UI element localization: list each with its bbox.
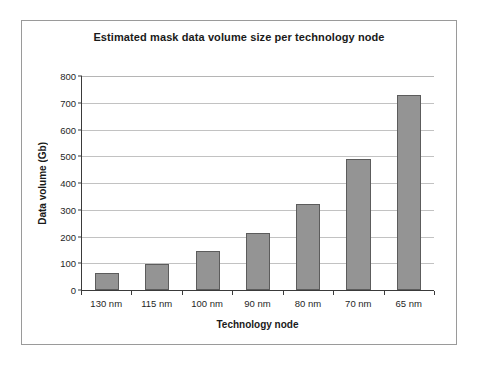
x-axis-title: Technology node	[81, 319, 434, 330]
x-tick-label: 80 nm	[283, 298, 333, 309]
x-tick-mark	[232, 291, 233, 295]
bar[interactable]	[296, 204, 320, 290]
x-tick-mark	[182, 291, 183, 295]
bar[interactable]	[145, 264, 169, 290]
y-tick-label: 300	[60, 204, 76, 215]
plot-area: 8007006005004003002001000	[81, 76, 434, 291]
y-tick-label: 500	[60, 151, 76, 162]
bar-slot	[132, 76, 182, 290]
x-axis-ticks	[81, 291, 434, 296]
y-tick-label: 400	[60, 178, 76, 189]
y-tick-label: 100	[60, 258, 76, 269]
x-tick-label: 115 nm	[131, 298, 181, 309]
x-tick-label: 90 nm	[232, 298, 282, 309]
y-axis-title-label: Data volume (Gb)	[37, 142, 48, 225]
bar-slot	[82, 76, 132, 290]
x-tick-label: 70 nm	[333, 298, 383, 309]
x-tick-mark	[283, 291, 284, 295]
x-tick-label: 130 nm	[81, 298, 131, 309]
x-tick-mark	[333, 291, 334, 295]
bar-slot	[283, 76, 333, 290]
x-tick-mark	[81, 291, 82, 295]
y-axis-title: Data volume (Gb)	[34, 76, 50, 291]
bar[interactable]	[346, 159, 370, 290]
bar-series	[82, 76, 434, 290]
bar[interactable]	[196, 251, 220, 290]
x-tick-label: 100 nm	[182, 298, 232, 309]
x-tick-mark	[434, 291, 435, 295]
bar-slot	[233, 76, 283, 290]
bar-slot	[384, 76, 434, 290]
y-tick-label: 600	[60, 124, 76, 135]
bar[interactable]	[246, 233, 270, 291]
x-tick-label: 65 nm	[384, 298, 434, 309]
bar[interactable]	[397, 95, 421, 290]
y-tick-label: 0	[71, 285, 76, 296]
y-tick-label: 700	[60, 97, 76, 108]
chart-title: Estimated mask data volume size per tech…	[22, 31, 456, 43]
y-tick-label: 200	[60, 231, 76, 242]
x-tick-mark	[384, 291, 385, 295]
chart-frame: Estimated mask data volume size per tech…	[21, 20, 457, 345]
x-tick-mark	[131, 291, 132, 295]
bar[interactable]	[95, 273, 119, 290]
y-tick-label: 800	[60, 71, 76, 82]
bar-slot	[183, 76, 233, 290]
bar-slot	[333, 76, 383, 290]
x-axis-labels: 130 nm115 nm100 nm90 nm80 nm70 nm65 nm	[81, 298, 434, 309]
